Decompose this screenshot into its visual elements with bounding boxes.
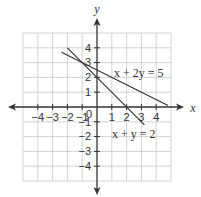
y-tick-label: −4 xyxy=(78,160,91,172)
y-tick-label: 2 xyxy=(85,71,91,83)
equation-label-2: x + y = 2 xyxy=(112,127,156,141)
y-tick-label: −2 xyxy=(78,130,91,142)
x-axis-label: x xyxy=(189,101,196,115)
x-tick-label: 2 xyxy=(124,111,130,123)
y-tick-label: 4 xyxy=(85,42,91,54)
x-tick-label: 1 xyxy=(109,111,115,123)
y-tick-label: −1 xyxy=(78,116,91,128)
y-tick-label: −3 xyxy=(78,145,91,157)
x-tick-label: 4 xyxy=(153,111,159,123)
equation-label-1: x + 2y = 5 xyxy=(114,66,164,80)
coordinate-plane: −4 −3 −2 −1 0 1 2 3 4 4 3 2 1 −1 −2 −3 −… xyxy=(0,0,201,197)
y-axis-label: y xyxy=(93,2,100,16)
y-tick-label: 1 xyxy=(85,86,91,98)
x-tick-label: −4 xyxy=(32,111,45,123)
x-tick-label: −2 xyxy=(61,111,74,123)
x-tick-label: −3 xyxy=(46,111,59,123)
